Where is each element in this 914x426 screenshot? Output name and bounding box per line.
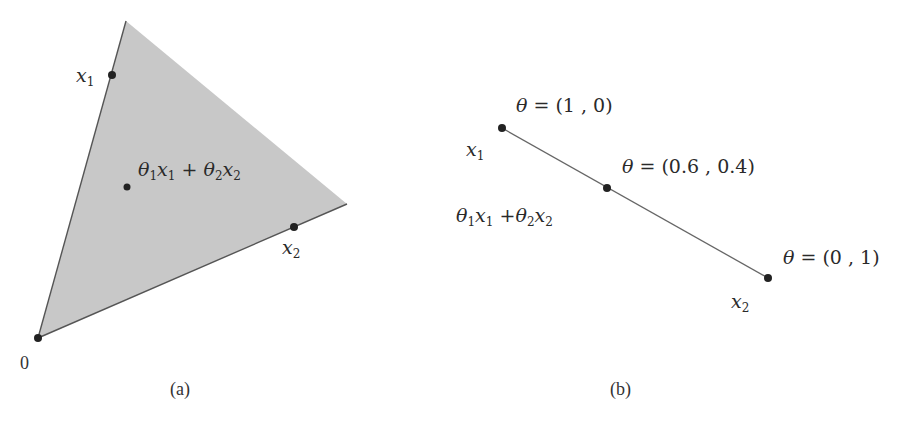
segment-x1-x2 xyxy=(502,128,768,278)
point-x1 xyxy=(108,71,116,79)
label-x2: x2 xyxy=(282,238,300,260)
label-combination: θ1x1 + θ2x2 xyxy=(138,160,241,182)
label-x1: x1 xyxy=(76,66,94,88)
label-theta-0-1: θ = (0 , 1) xyxy=(783,248,880,267)
point-b-x2 xyxy=(764,274,772,282)
point-x2 xyxy=(290,223,298,231)
label-origin: 0 xyxy=(20,354,29,372)
label-b-x1: x1 xyxy=(466,140,484,162)
label-b-combination: θ1x1 +θ2x2 xyxy=(456,206,553,228)
caption-b: (b) xyxy=(610,380,631,398)
label-b-x2: x2 xyxy=(731,292,749,314)
point-b-mid xyxy=(603,184,611,192)
label-theta-0.6-0.4: θ = (0.6 , 0.4) xyxy=(622,157,755,176)
point-combination xyxy=(124,184,131,191)
point-b-x1 xyxy=(498,124,506,132)
label-theta-1-0: θ = (1 , 0) xyxy=(516,96,613,115)
caption-a: (a) xyxy=(170,380,190,398)
point-origin xyxy=(34,334,42,342)
